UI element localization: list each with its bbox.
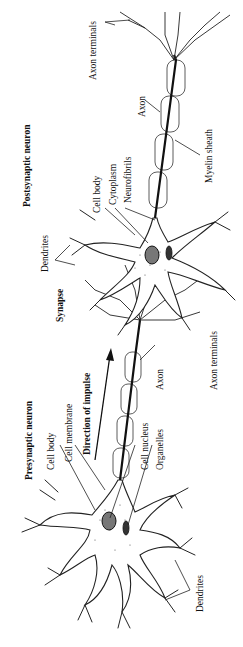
post-myelin-sheath-label: Myelin sheath xyxy=(204,129,214,183)
pre-cell-body-label: Cell body xyxy=(46,433,56,470)
postsynaptic-organelle xyxy=(166,246,172,260)
postsynaptic-nucleus xyxy=(145,246,159,264)
presynaptic-cell-body xyxy=(40,480,180,612)
post-neurofibrils-label: Neurofibrils xyxy=(123,156,133,203)
post-axon-label: Axon xyxy=(137,96,147,117)
pre-axon-label: Axon xyxy=(155,369,165,390)
neuron-diagram: Presynaptic neuron Cell body Cell membra… xyxy=(0,0,243,647)
post-dendrites-label: Dendrites xyxy=(40,235,50,272)
presynaptic-nucleus xyxy=(102,512,116,530)
post-cell-body-label: Cell body xyxy=(92,176,102,213)
synapse-label: Synapse xyxy=(55,289,65,322)
post-cytoplasm-label: Cytoplasm xyxy=(108,163,118,205)
pre-cell-membrane-label: Cell membrane xyxy=(64,404,74,462)
postsynaptic-title: Postsynaptic neuron xyxy=(22,124,32,207)
pre-axon-terminals-label: Axon terminals xyxy=(209,331,219,390)
postsynaptic-axon xyxy=(149,55,185,218)
postsynaptic-cell-body xyxy=(85,218,225,325)
post-axon-terminals-label: Axon terminals xyxy=(88,21,98,80)
pre-organelles-label: Organelles xyxy=(155,429,165,470)
direction-arrow xyxy=(95,348,114,460)
direction-of-impulse-label: Direction of impulse xyxy=(82,373,92,455)
postsynaptic-axon-terminals xyxy=(120,12,230,60)
pre-dendrites-label: Dendrites xyxy=(195,575,205,612)
presynaptic-title: Presynaptic neuron xyxy=(24,400,34,480)
pre-cell-nucleus-label: Cell nucleus xyxy=(140,422,150,470)
presynaptic-organelle xyxy=(123,521,129,535)
presynaptic-axon xyxy=(113,320,141,480)
